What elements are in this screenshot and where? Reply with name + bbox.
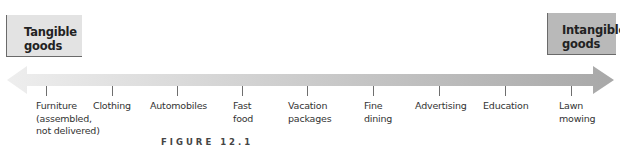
- tick-mark: [46, 86, 47, 96]
- tangible-goods-label-line2: goods: [24, 39, 82, 53]
- continuum-item-label: Furniture (assembled, not delivered): [36, 100, 100, 138]
- intangible-goods-label-line1: Intangible: [562, 23, 616, 37]
- continuum-item-label: Lawn mowing: [559, 100, 595, 125]
- continuum-item-label: Fine dining: [364, 100, 392, 125]
- tick-mark: [307, 86, 308, 96]
- intangible-goods-box: Intangible goods: [547, 13, 616, 55]
- continuum-item-label: Advertising: [415, 100, 467, 113]
- figure-caption: FIGURE 12.1: [161, 137, 253, 147]
- tick-mark: [373, 86, 374, 96]
- tick-mark: [177, 86, 178, 96]
- tangible-goods-label-line1: Tangible: [24, 25, 82, 39]
- tick-mark: [505, 86, 506, 96]
- continuum-item-label: Clothing: [93, 100, 131, 113]
- tangible-goods-box: Tangible goods: [6, 15, 82, 57]
- continuum-item-label: Automobiles: [150, 100, 207, 113]
- continuum-item-label: Vacation packages: [288, 100, 331, 125]
- tick-mark: [112, 86, 113, 96]
- intangible-goods-label-line2: goods: [562, 37, 616, 51]
- continuum-item-label: Education: [483, 100, 529, 113]
- continuum-item-label: Fast food: [233, 100, 253, 125]
- tick-mark: [439, 86, 440, 96]
- continuum-arrow-icon: [0, 62, 620, 98]
- tick-mark: [571, 86, 572, 96]
- tick-mark: [242, 86, 243, 96]
